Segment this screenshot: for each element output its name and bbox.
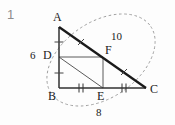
measure-label-6: 6 (30, 50, 36, 61)
diagram-page: 1 A B C D E F 6 10 8 (0, 0, 175, 125)
measure-label-10: 10 (111, 31, 122, 42)
vertex-label-A: A (53, 11, 62, 23)
vertex-label-B: B (48, 90, 56, 102)
vertex-label-F: F (105, 44, 112, 56)
measure-label-8: 8 (96, 107, 102, 118)
segment-DE (59, 57, 103, 88)
vertex-label-C: C (150, 83, 158, 95)
vertex-label-E: E (97, 90, 104, 102)
vertex-label-D: D (43, 49, 52, 61)
geometry-figure (0, 0, 175, 125)
